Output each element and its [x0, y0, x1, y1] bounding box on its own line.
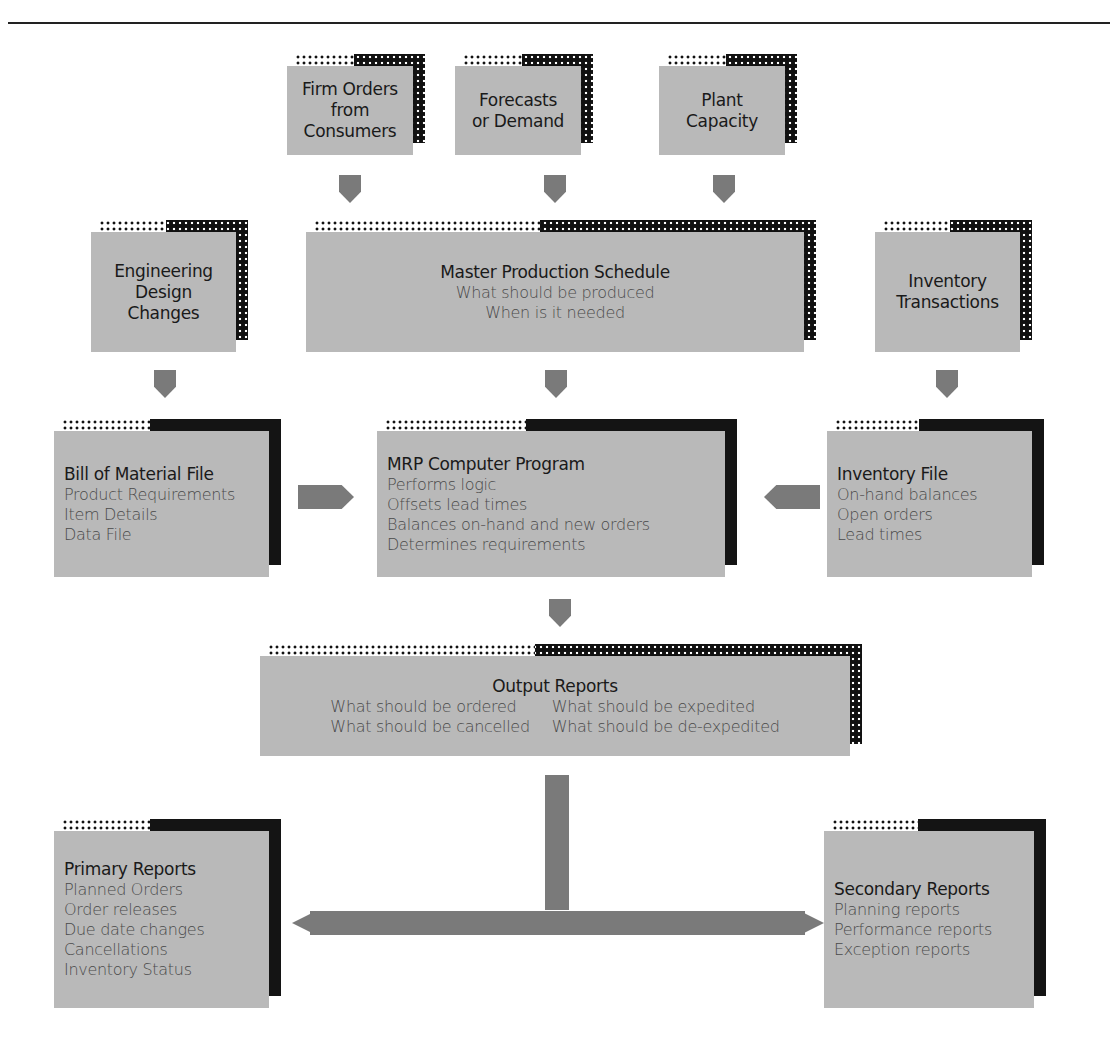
- node-mrp-computer-program: MRP Computer Program Performs logic Offs…: [377, 431, 725, 577]
- node-item: On-hand balances: [837, 485, 1032, 505]
- node-label-line: Consumers: [304, 121, 397, 142]
- arrow-down-icon: [549, 599, 571, 627]
- node-face: Plant Capacity: [659, 66, 785, 155]
- node-item: Open orders: [837, 505, 1032, 525]
- node-face: Firm Orders from Consumers: [287, 66, 413, 155]
- arrow-down-icon: [544, 175, 566, 203]
- node-face: Inventory File On-hand balances Open ord…: [827, 431, 1032, 577]
- arrow-right-icon: [800, 911, 824, 935]
- node-label-line: Transactions: [896, 292, 999, 313]
- node-item: Exception reports: [834, 940, 1034, 960]
- node-label-line: Plant: [701, 90, 742, 111]
- node-title: Secondary Reports: [834, 879, 1034, 900]
- node-item: Lead times: [837, 525, 1032, 545]
- arrow-left-icon: [292, 911, 316, 935]
- top-rule: [8, 22, 1110, 24]
- node-label-line: Changes: [128, 303, 200, 324]
- node-item: What should be expedited: [552, 697, 780, 717]
- node-label-line: from: [331, 100, 369, 121]
- node-item: Product Requirements: [64, 485, 269, 505]
- arrow-left-icon: [764, 485, 820, 509]
- node-item: What should be de-expedited: [552, 717, 780, 737]
- arrow-down-icon: [936, 370, 958, 398]
- node-item: Due date changes: [64, 920, 269, 940]
- node-primary-reports: Primary Reports Planned Orders Order rel…: [54, 831, 269, 1008]
- node-face: Engineering Design Changes: [91, 232, 236, 352]
- node-item: Performance reports: [834, 920, 1034, 940]
- node-face: Secondary Reports Planning reports Perfo…: [824, 831, 1034, 1008]
- node-face: Master Production Schedule What should b…: [306, 232, 804, 352]
- node-face: Inventory Transactions: [875, 232, 1020, 352]
- node-forecasts: Forecasts or Demand: [455, 66, 581, 155]
- node-inventory-transactions: Inventory Transactions: [875, 232, 1020, 352]
- node-label-line: Firm Orders: [302, 79, 398, 100]
- node-face: Bill of Material File Product Requiremen…: [54, 431, 269, 577]
- arrow-down-icon: [339, 175, 361, 203]
- node-title: MRP Computer Program: [387, 454, 725, 475]
- node-label-line: Engineering: [114, 261, 213, 282]
- node-inventory-file: Inventory File On-hand balances Open ord…: [827, 431, 1032, 577]
- node-item: Offsets lead times: [387, 495, 725, 515]
- arrow-down-icon: [154, 370, 176, 398]
- node-plant-capacity: Plant Capacity: [659, 66, 785, 155]
- node-bill-of-material-file: Bill of Material File Product Requiremen…: [54, 431, 269, 577]
- node-title: Output Reports: [492, 676, 617, 697]
- node-item: What should be ordered: [330, 697, 529, 717]
- node-label-line: Inventory: [908, 271, 987, 292]
- node-item: Planning reports: [834, 900, 1034, 920]
- node-item: Performs logic: [387, 475, 725, 495]
- node-item: Order releases: [64, 900, 269, 920]
- node-label-line: Forecasts: [479, 90, 557, 111]
- node-engineering-design-changes: Engineering Design Changes: [91, 232, 236, 352]
- connector-stem: [545, 775, 569, 910]
- node-title: Master Production Schedule: [440, 262, 670, 283]
- output-items-grid: What should be ordered What should be ex…: [330, 697, 779, 737]
- node-item: Determines requirements: [387, 535, 725, 555]
- node-secondary-reports: Secondary Reports Planning reports Perfo…: [824, 831, 1034, 1008]
- node-title: Bill of Material File: [64, 464, 269, 485]
- node-item: Data File: [64, 525, 269, 545]
- node-item: Cancellations: [64, 940, 269, 960]
- node-output-reports: Output Reports What should be ordered Wh…: [260, 656, 850, 756]
- node-title: Primary Reports: [64, 859, 269, 880]
- node-face: MRP Computer Program Performs logic Offs…: [377, 431, 725, 577]
- node-label-line: Design: [135, 282, 192, 303]
- node-face: Output Reports What should be ordered Wh…: [260, 656, 850, 756]
- arrow-down-icon: [713, 175, 735, 203]
- node-item: What should be produced: [456, 283, 655, 303]
- node-face: Forecasts or Demand: [455, 66, 581, 155]
- arrow-right-icon: [298, 485, 354, 509]
- node-item: Balances on-hand and new orders: [387, 515, 725, 535]
- node-firm-orders: Firm Orders from Consumers: [287, 66, 413, 155]
- node-item: What should be cancelled: [330, 717, 529, 737]
- node-item: Inventory Status: [64, 960, 269, 980]
- node-master-production-schedule: Master Production Schedule What should b…: [306, 232, 804, 352]
- node-item: Planned Orders: [64, 880, 269, 900]
- node-face: Primary Reports Planned Orders Order rel…: [54, 831, 269, 1008]
- node-item: Item Details: [64, 505, 269, 525]
- arrow-down-icon: [545, 370, 567, 398]
- connector-bar: [310, 911, 805, 935]
- node-item: When is it needed: [485, 303, 625, 323]
- node-label-line: Capacity: [686, 111, 758, 132]
- node-title: Inventory File: [837, 464, 1032, 485]
- node-label-line: or Demand: [472, 111, 564, 132]
